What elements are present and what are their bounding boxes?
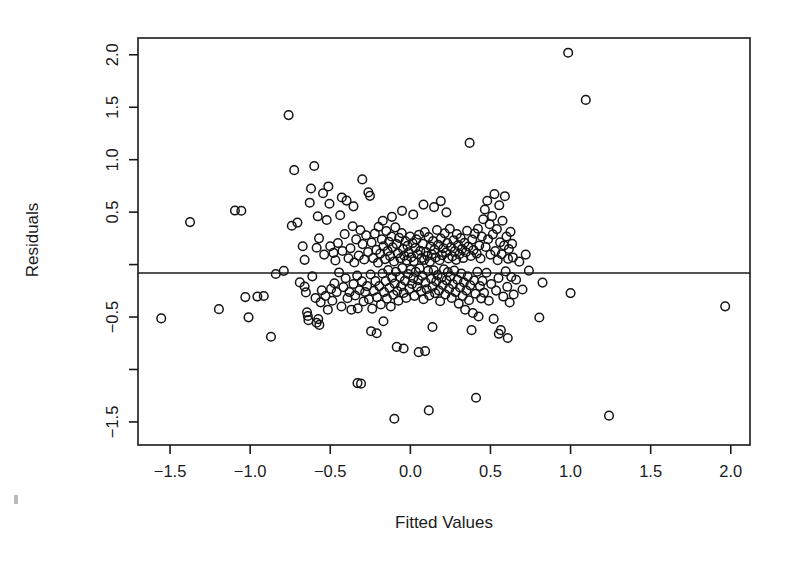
y-tick-label: 1.5	[103, 96, 121, 119]
data-point	[186, 218, 195, 227]
data-point	[379, 216, 388, 225]
data-point	[478, 277, 487, 286]
data-point	[324, 182, 333, 191]
data-point	[322, 216, 331, 225]
data-point	[334, 239, 343, 248]
data-point	[315, 321, 324, 330]
data-point	[605, 411, 614, 420]
data-point	[259, 292, 268, 301]
data-point	[472, 394, 481, 403]
data-point	[324, 305, 333, 314]
data-point	[485, 296, 494, 305]
data-point	[382, 227, 391, 236]
y-tick-label: 2.0	[103, 43, 121, 66]
data-point	[581, 96, 590, 105]
y-tick-label: −0.5	[103, 301, 121, 334]
data-points	[157, 48, 730, 423]
data-point	[298, 242, 307, 251]
data-point	[241, 293, 250, 302]
x-tick-label: 0.5	[479, 462, 502, 480]
data-point	[424, 406, 433, 415]
data-point	[267, 332, 276, 341]
y-axis-title: Residuals	[23, 203, 42, 278]
data-point	[501, 192, 510, 201]
data-point	[358, 175, 367, 184]
x-tick-label: 2.0	[719, 462, 742, 480]
data-point	[498, 216, 507, 225]
scan-speck	[14, 495, 18, 504]
y-tick-label: 1.0	[103, 148, 121, 171]
residuals-vs-fitted-plot: Residuals Fitted Values −1.5−1.0−0.50.00…	[0, 0, 786, 572]
x-tick-label: −1.0	[234, 462, 267, 480]
data-point	[358, 240, 367, 249]
data-point	[535, 313, 544, 322]
data-point	[215, 305, 224, 314]
data-point	[367, 327, 376, 336]
data-point	[307, 184, 316, 193]
x-tick-label: −1.5	[154, 462, 187, 480]
data-point	[300, 256, 309, 265]
data-point	[157, 314, 166, 323]
x-tick-label: −0.5	[314, 462, 347, 480]
data-point	[492, 286, 501, 295]
data-point	[490, 190, 499, 199]
data-point	[564, 48, 573, 57]
x-axis-title: Fitted Values	[395, 513, 493, 532]
data-point	[244, 313, 253, 322]
x-tick-label: 0.0	[399, 462, 422, 480]
data-point	[430, 203, 439, 212]
data-point	[315, 234, 324, 243]
data-point	[398, 207, 407, 216]
x-tick-label: 1.0	[559, 462, 582, 480]
data-point	[379, 317, 388, 326]
data-point	[505, 298, 514, 307]
data-point	[368, 304, 377, 313]
data-point	[305, 198, 314, 207]
data-point	[390, 414, 399, 423]
data-point	[387, 302, 396, 311]
data-point	[521, 250, 530, 259]
data-point	[290, 166, 299, 175]
data-point	[488, 212, 497, 221]
data-point	[465, 139, 474, 148]
data-point	[503, 283, 512, 292]
data-point	[320, 250, 329, 259]
data-point	[442, 208, 451, 217]
data-point	[337, 302, 346, 311]
data-point	[489, 315, 498, 324]
data-point	[419, 200, 428, 209]
data-point	[402, 294, 411, 303]
x-tick-label: 1.5	[639, 462, 662, 480]
y-tick-label: −1.5	[103, 406, 121, 439]
data-point	[346, 244, 355, 253]
data-point	[359, 297, 368, 306]
data-point	[365, 295, 374, 304]
data-point	[388, 213, 397, 222]
data-point	[409, 210, 418, 219]
data-point	[372, 329, 381, 338]
data-point	[494, 274, 503, 283]
data-point	[349, 202, 358, 211]
data-point	[483, 197, 492, 206]
plot-canvas: Residuals Fitted Values −1.5−1.0−0.50.00…	[0, 0, 786, 572]
y-tick-label: 0.5	[103, 201, 121, 224]
data-point	[284, 111, 293, 120]
data-point	[721, 302, 730, 311]
data-point	[279, 267, 288, 276]
data-point	[341, 274, 350, 283]
data-point	[509, 290, 518, 299]
data-point	[325, 199, 334, 208]
data-point	[328, 296, 337, 305]
data-point	[237, 206, 246, 215]
data-point	[336, 211, 345, 220]
data-point	[358, 277, 367, 286]
data-point	[302, 288, 311, 297]
data-point	[503, 334, 512, 343]
data-point	[566, 289, 575, 298]
data-point	[538, 278, 547, 287]
data-point	[467, 326, 476, 335]
data-point	[473, 267, 482, 276]
data-point	[428, 323, 437, 332]
data-point	[313, 212, 322, 221]
data-point	[481, 205, 490, 214]
